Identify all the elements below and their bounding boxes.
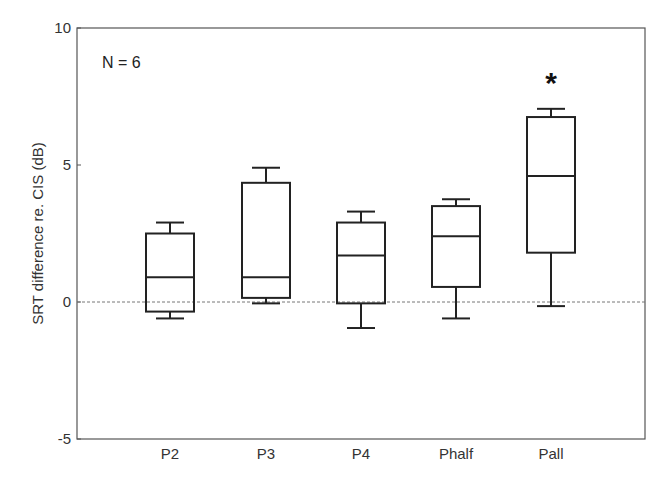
interquartile-box [337,223,385,304]
y-tick-label: 10 [54,19,71,36]
x-tick-label: Pall [538,445,563,462]
x-tick-label: P2 [161,445,179,462]
interquartile-box [432,206,480,287]
box-plot-chart: 1050-5SRT difference re. CIS (dB)N = 6P2… [0,0,671,480]
x-tick-label: P3 [257,445,275,462]
interquartile-box [242,183,290,298]
interquartile-box [527,117,575,253]
box-pall [527,109,575,306]
box-phalf [432,199,480,318]
box-p3 [242,168,290,304]
interquartile-box [146,234,194,312]
y-axis-label: SRT difference re. CIS (dB) [29,142,46,325]
box-p4 [337,212,385,328]
x-tick-label: Phalf [439,445,474,462]
x-tick-label: P4 [352,445,370,462]
y-tick-label: -5 [58,430,71,447]
sample-size-annotation: N = 6 [102,54,141,71]
y-tick-label: 0 [63,293,71,310]
box-p2 [146,223,194,319]
significance-marker: * [545,66,557,99]
y-tick-label: 5 [63,156,71,173]
